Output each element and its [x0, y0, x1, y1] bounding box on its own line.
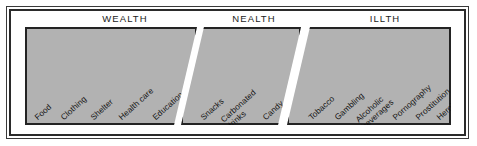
band-wealth: Food Clothing Shelter Health care Educat…	[25, 27, 197, 125]
item-label-shelter: Shelter	[89, 97, 115, 122]
item-label-education: Education	[151, 90, 185, 122]
section-bands: Food Clothing Shelter Health care Educat…	[0, 0, 477, 146]
item-label-tobacco: Tobacco	[307, 94, 336, 122]
wealth-nealth-illth-diagram: WEALTH NEALTH ILLTH Food Clothing Shelte…	[0, 0, 477, 146]
item-label-health-care: Health care	[117, 86, 155, 122]
band-illth: Tobacco Gambling Alcoholic beverages Por…	[287, 27, 451, 125]
item-label-food: Food	[33, 102, 53, 122]
item-label-carbonated-drinks: Carbonated drinks	[219, 88, 264, 131]
item-label-clothing: Clothing	[59, 94, 88, 122]
item-label-candy: Candy	[261, 99, 285, 122]
band-nealth: Snacks Carbonated drinks Candy	[181, 27, 301, 125]
